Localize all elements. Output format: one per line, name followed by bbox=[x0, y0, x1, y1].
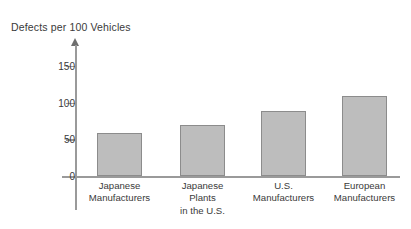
y-axis-tick-label: 0 bbox=[41, 171, 75, 182]
bar bbox=[97, 133, 142, 176]
x-axis-category-label: Japanese Manufacturers bbox=[73, 180, 167, 205]
y-axis-tick-label: 150 bbox=[41, 60, 75, 71]
y-axis-tick-label: 50 bbox=[41, 134, 75, 145]
bar bbox=[342, 96, 387, 176]
bar bbox=[261, 111, 306, 176]
chart-title: Defects per 100 Vehicles bbox=[11, 21, 131, 33]
bar bbox=[180, 125, 225, 176]
y-axis-tick-label: 100 bbox=[41, 97, 75, 108]
x-axis-category-label: U.S. Manufacturers bbox=[237, 180, 331, 205]
x-axis-baseline bbox=[62, 176, 400, 178]
bar-chart-figure: Defects per 100 Vehicles 150100500 Japan… bbox=[0, 0, 411, 229]
x-axis-category-label: European Manufacturers bbox=[318, 180, 411, 205]
x-axis-category-label: Japanese Plants in the U.S. bbox=[156, 180, 250, 217]
